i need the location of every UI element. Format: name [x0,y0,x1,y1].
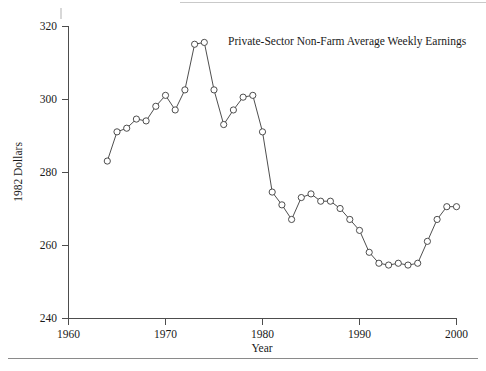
data-point-1976 [221,121,227,127]
data-point-1999 [444,204,450,210]
data-point-2000 [453,204,459,210]
line-chart-plot: 240260280300320 19601970198019902000 198… [0,0,486,360]
data-point-1993 [386,262,392,268]
data-point-1986 [318,198,324,204]
data-point-1992 [376,260,382,266]
x-axis-ticks [69,319,457,326]
data-point-1982 [279,202,285,208]
data-point-1964 [104,158,110,164]
data-point-1978 [240,94,246,100]
x-tick-label: 1960 [57,328,80,340]
data-point-1984 [298,194,304,200]
y-axis-ticks [62,26,69,318]
x-tick-label: 1980 [251,328,274,340]
data-point-1983 [289,216,295,222]
chart-figure: 240260280300320 19601970198019902000 198… [0,0,486,371]
y-tick-label: 240 [40,312,58,324]
data-point-1970 [162,92,168,98]
data-point-1967 [133,116,139,122]
data-point-1980 [259,129,265,135]
y-axis-tick-labels: 240260280300320 [40,20,58,324]
data-point-1977 [230,107,236,113]
y-tick-label: 280 [40,166,58,178]
x-tick-label: 1990 [348,328,371,340]
x-axis-tick-labels: 19601970198019902000 [57,328,468,340]
data-point-1989 [347,216,353,222]
data-point-1990 [356,227,362,233]
data-point-1965 [114,129,120,135]
data-point-1969 [153,103,159,109]
chart-title: Private-Sector Non-Farm Average Weekly E… [228,35,467,48]
data-point-markers [104,39,459,268]
data-point-1972 [182,87,188,93]
y-tick-label: 300 [40,93,58,105]
x-axis-title: Year [251,342,272,354]
y-tick-label: 260 [40,239,58,251]
x-tick-label: 2000 [445,328,468,340]
data-point-1996 [415,260,421,266]
data-point-1966 [124,125,130,131]
y-axis-title: 1982 Dollars [12,142,24,202]
data-point-1975 [211,87,217,93]
data-point-1987 [327,198,333,204]
x-tick-label: 1970 [154,328,177,340]
data-point-1968 [143,118,149,124]
data-point-1971 [172,107,178,113]
data-point-1985 [308,191,314,197]
bottom-divider-rule [8,358,478,359]
data-point-1988 [337,205,343,211]
data-point-1973 [192,41,198,47]
data-point-1995 [405,262,411,268]
data-point-1981 [269,189,275,195]
data-point-1994 [395,260,401,266]
data-point-1991 [366,249,372,255]
y-tick-label: 320 [40,20,58,32]
data-point-1979 [250,92,256,98]
data-series-line [107,42,456,265]
data-point-1998 [434,216,440,222]
data-point-1974 [201,39,207,45]
top-divider-rule [180,2,486,3]
data-point-1997 [424,238,430,244]
text-cursor-mark [60,8,62,19]
